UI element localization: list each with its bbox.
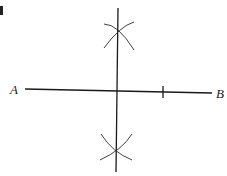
top-arc-right <box>104 22 134 48</box>
construction-diagram: A B <box>0 0 227 176</box>
segment-ab <box>25 89 212 93</box>
top-arc-left <box>104 24 134 50</box>
label-point-b: B <box>216 86 224 101</box>
label-point-a: A <box>9 82 18 97</box>
